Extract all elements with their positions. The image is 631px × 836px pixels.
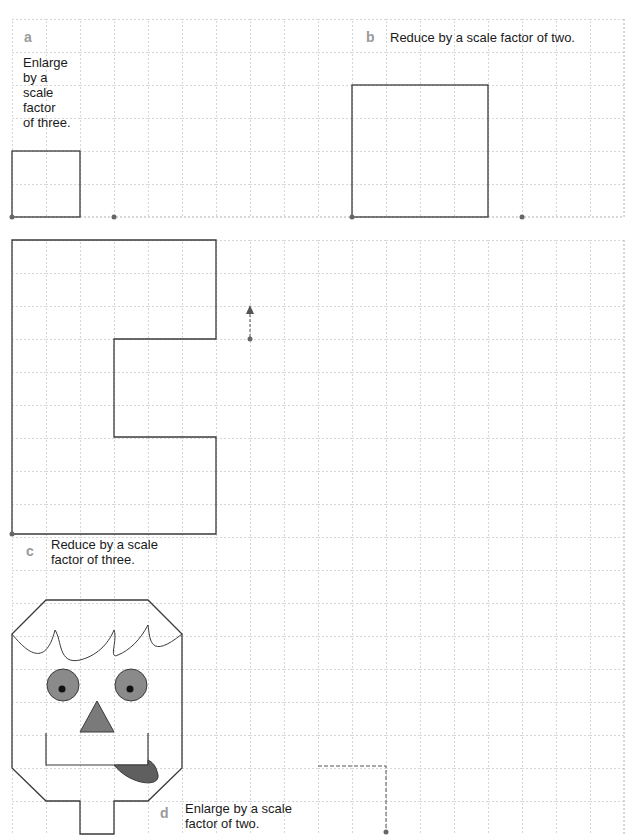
- question-letter-c: c: [26, 543, 34, 559]
- worksheet-canvas: [0, 0, 631, 836]
- question-letter-d: d: [160, 805, 169, 821]
- instruction-d-line: factor of two.: [185, 816, 292, 831]
- instruction-a-line: factor: [23, 100, 71, 115]
- instruction-c-line: Reduce by a scale: [51, 537, 158, 552]
- instruction-d: Enlarge by a scale factor of two.: [185, 801, 292, 831]
- instruction-c: Reduce by a scale factor of three.: [51, 537, 158, 567]
- question-letter-b: b: [366, 29, 375, 45]
- instruction-c-line: factor of three.: [51, 552, 158, 567]
- instruction-a-line: by a: [23, 70, 71, 85]
- question-letter-a: a: [24, 29, 32, 45]
- centre-point-a: [112, 215, 117, 220]
- instruction-a-line: Enlarge: [23, 55, 71, 70]
- instruction-a-line: scale: [23, 85, 71, 100]
- centre-point-d: [384, 830, 389, 835]
- instruction-b: Reduce by a scale factor of two.: [390, 30, 575, 45]
- centre-point-b: [520, 215, 525, 220]
- centre-point-c: [248, 337, 253, 342]
- instruction-a: Enlarge by a scale factor of three.: [23, 55, 71, 130]
- instruction-d-line: Enlarge by a scale: [185, 801, 292, 816]
- instruction-a-line: of three.: [23, 115, 71, 130]
- grid-top: [12, 19, 624, 217]
